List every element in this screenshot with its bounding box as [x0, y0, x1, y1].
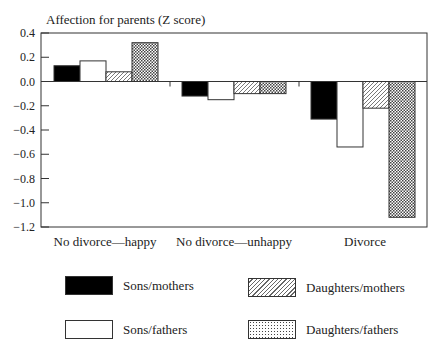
y-tick-label: 0.2	[20, 50, 35, 64]
bar-sons-fathers	[80, 61, 106, 82]
y-axis-label: Affection for parents (Z score)	[46, 12, 205, 27]
bar-daughters-mothers	[106, 72, 132, 82]
bar-sons-mothers	[311, 82, 337, 120]
y-tick-label: −0.6	[13, 147, 35, 161]
bar-sons-fathers	[337, 82, 363, 147]
bar-daughters-mothers	[363, 82, 389, 109]
x-category-label: Divorce	[344, 234, 386, 249]
y-tick-label: 0.0	[20, 75, 35, 89]
y-tick-label: −1.0	[13, 196, 35, 210]
y-tick-label: 0.4	[20, 26, 35, 40]
bar-daughters-fathers	[132, 43, 158, 82]
y-tick-label: −0.4	[13, 123, 35, 137]
y-tick-label: −0.8	[13, 172, 35, 186]
bars	[54, 43, 415, 218]
y-axis: 0.40.20.0−0.2−0.4−0.6−0.8−1.0−1.2	[13, 26, 49, 234]
y-tick-label: −1.2	[13, 220, 35, 234]
x-axis-labels: No divorce—happyNo divorce—unhappyDivorc…	[54, 234, 387, 249]
bar-sons-mothers	[54, 66, 80, 82]
y-tick-label: −0.2	[13, 99, 35, 113]
bar-daughters-mothers	[234, 82, 260, 94]
x-category-label: No divorce—happy	[54, 234, 157, 249]
bar-sons-mothers	[182, 82, 208, 97]
bar-sons-fathers	[208, 82, 234, 100]
bar-daughters-fathers	[389, 82, 415, 218]
bar-chart: Affection for parents (Z score) 0.40.20.…	[0, 0, 441, 356]
bar-daughters-fathers	[260, 82, 286, 94]
x-category-label: No divorce—unhappy	[176, 234, 292, 249]
